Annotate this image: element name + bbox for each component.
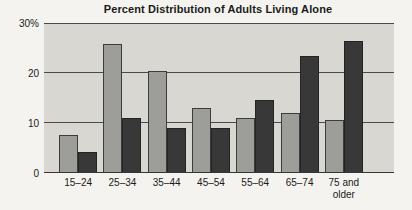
bar-darker-gray-bars-0	[78, 152, 97, 172]
bar-lighter-gray-bars-2	[148, 71, 167, 172]
y-axis: 0102030%	[0, 23, 39, 173]
bar-group-4	[233, 24, 277, 172]
bar-group-2	[145, 24, 189, 172]
bar-lighter-gray-bars-6	[325, 120, 344, 172]
y-tick-label: 0	[33, 168, 39, 179]
x-tick-label-5: 65–74	[277, 177, 321, 200]
bar-lighter-gray-bars-3	[192, 108, 211, 172]
chart-title: Percent Distribution of Adults Living Al…	[40, 3, 396, 15]
bar-darker-gray-bars-5	[300, 56, 319, 172]
y-tick-label: 20	[28, 68, 39, 79]
x-axis: 15–2425–3435–4445–5455–6465–7475 and old…	[44, 177, 394, 200]
x-tick-label-0: 15–24	[56, 177, 100, 200]
y-tick-label: 10	[28, 118, 39, 129]
bar-group-5	[277, 24, 321, 172]
bar-darker-gray-bars-3	[211, 128, 230, 172]
bar-lighter-gray-bars-1	[103, 44, 122, 172]
bar-group-3	[189, 24, 233, 172]
bar-darker-gray-bars-6	[344, 41, 363, 172]
bar-group-1	[100, 24, 144, 172]
x-tick-label-3: 45–54	[189, 177, 233, 200]
bar-darker-gray-bars-1	[122, 118, 141, 172]
bar-chart-figure: Percent Distribution of Adults Living Al…	[0, 0, 412, 210]
x-tick-label-4: 55–64	[233, 177, 277, 200]
x-tick-label-2: 35–44	[145, 177, 189, 200]
bar-lighter-gray-bars-5	[281, 113, 300, 172]
bar-group-6	[322, 24, 366, 172]
bar-lighter-gray-bars-0	[59, 135, 78, 172]
x-tick-label-1: 25–34	[100, 177, 144, 200]
bar-lighter-gray-bars-4	[236, 118, 255, 172]
plot-area	[44, 23, 394, 173]
bar-group-0	[56, 24, 100, 172]
bar-darker-gray-bars-4	[255, 100, 274, 172]
x-tick-label-6: 75 and older	[322, 177, 366, 200]
bars-container	[56, 24, 366, 172]
y-tick-label: 30%	[19, 18, 39, 29]
bar-darker-gray-bars-2	[167, 128, 186, 172]
